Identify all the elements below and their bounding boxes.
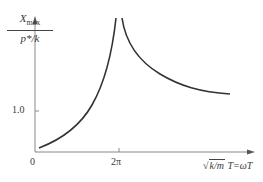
curve-right-branch: [122, 18, 230, 94]
y-label-denominator: p*/k: [7, 32, 53, 45]
y-label-subscript: max: [26, 18, 40, 27]
sqrt-icon: √: [203, 160, 209, 171]
x-axis-arrow-icon: [247, 150, 255, 155]
fraction-bar: [7, 30, 53, 31]
x-tick-label-2pi: 2π: [111, 156, 121, 167]
y-tick-label: 1.0: [12, 104, 25, 115]
x-axis-label: √k/m T=ωT: [203, 160, 252, 171]
x-label-rest: T=ωT: [227, 160, 252, 171]
origin-label: 0: [30, 156, 35, 167]
x-label-radicand: k/m: [209, 159, 225, 171]
y-axis-label: Xmax p*/k: [7, 12, 53, 45]
